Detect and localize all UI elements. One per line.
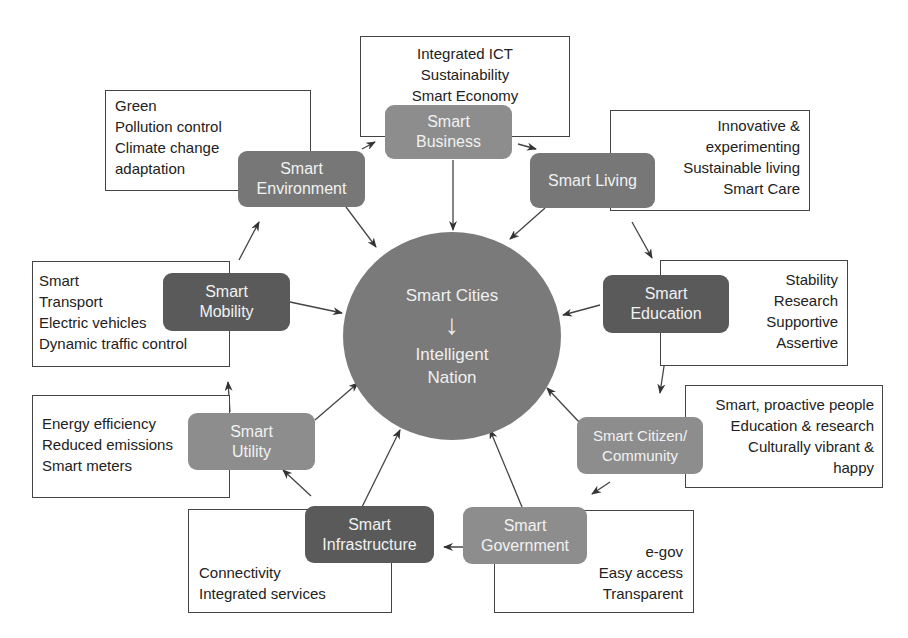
smart-mobility-node: Smart Mobility <box>163 273 290 331</box>
smart-environment-node: Smart Environment <box>238 151 365 207</box>
smart-infrastructure-node: Smart Infrastructure <box>305 506 434 563</box>
smart-cities-diagram: Integrated ICT Sustainability Smart Econ… <box>0 0 908 638</box>
smart-mobility-line2: Mobility <box>199 302 253 322</box>
smart-infrastructure-line2: Infrastructure <box>322 535 416 555</box>
smart-education-node: Smart Education <box>603 275 729 333</box>
education-detail-4: Assertive <box>661 332 838 353</box>
mobility-detail-4: Dynamic traffic control <box>39 333 229 354</box>
citizen-detail-4: happy <box>686 457 874 478</box>
smart-business-line2: Business <box>416 132 481 152</box>
smart-infrastructure-line1: Smart <box>348 515 391 535</box>
citizen-detail-box: Smart, proactive people Education & rese… <box>685 385 883 488</box>
government-detail-2: Easy access <box>495 562 683 583</box>
smart-citizen-line2: Community <box>602 446 678 466</box>
smart-citizen-node: Smart Citizen/ Community <box>577 417 703 474</box>
down-arrow-icon: ↓ <box>445 309 459 341</box>
smart-citizen-line1: Smart Citizen/ <box>593 426 687 446</box>
smart-living-node: Smart Living <box>530 153 655 208</box>
environment-detail-1: Green <box>115 95 310 116</box>
citizen-detail-1: Smart, proactive people <box>686 394 874 415</box>
smart-government-line1: Smart <box>504 516 547 536</box>
citizen-detail-3: Culturally vibrant & <box>686 436 874 457</box>
citizen-detail-2: Education & research <box>686 415 874 436</box>
smart-government-node: Smart Government <box>463 507 587 564</box>
smart-environment-line2: Environment <box>257 179 347 199</box>
smart-education-line1: Smart <box>645 284 688 304</box>
smart-utility-node: Smart Utility <box>188 413 315 470</box>
center-title: Smart Cities <box>406 284 499 307</box>
center-subtitle-line1: Intelligent <box>416 343 489 366</box>
business-detail-3: Smart Economy <box>361 85 569 106</box>
government-detail-3: Transparent <box>495 583 683 604</box>
business-detail-2: Sustainability <box>361 64 569 85</box>
infrastructure-detail-1: Connectivity <box>199 562 391 583</box>
business-detail-1: Integrated ICT <box>361 43 569 64</box>
smart-business-line1: Smart <box>427 112 470 132</box>
infrastructure-detail-2: Integrated services <box>199 583 391 604</box>
center-subtitle-line2: Nation <box>427 366 476 389</box>
smart-utility-line2: Utility <box>232 442 271 462</box>
smart-living-line1: Smart Living <box>548 171 637 191</box>
living-detail-1: Innovative & <box>611 115 800 136</box>
environment-detail-2: Pollution control <box>115 116 310 137</box>
smart-cities-center-circle: Smart Cities ↓ Intelligent Nation <box>343 232 561 440</box>
smart-government-line2: Government <box>481 536 569 556</box>
smart-business-node: Smart Business <box>385 105 512 159</box>
smart-mobility-line1: Smart <box>205 282 248 302</box>
smart-utility-line1: Smart <box>230 422 273 442</box>
smart-environment-line1: Smart <box>280 159 323 179</box>
smart-education-line2: Education <box>630 304 701 324</box>
